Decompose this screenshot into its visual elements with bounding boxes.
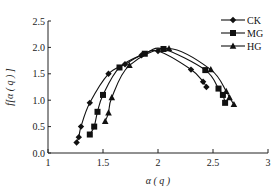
x-tick-label: 3	[266, 157, 271, 168]
x-tick-label: 2.5	[207, 157, 220, 168]
legend-label: CK	[247, 15, 262, 26]
y-tick-label: 2.0	[33, 42, 46, 53]
x-tick-label: 1	[46, 157, 51, 168]
y-tick-label: 0.5	[33, 121, 46, 132]
legend: CKMGHG	[221, 15, 263, 52]
legend-label: MG	[247, 28, 263, 39]
series-ck	[73, 48, 209, 146]
y-axis-title: f[α ( q ) ]	[4, 68, 16, 106]
legend-square-icon	[230, 30, 236, 36]
triangle-marker	[105, 109, 112, 115]
square-marker	[222, 100, 228, 106]
legend-item-hg: HG	[221, 41, 261, 52]
square-marker	[87, 132, 93, 138]
x-tick-label: 1.5	[97, 157, 110, 168]
square-marker	[117, 64, 123, 70]
legend-diamond-icon	[230, 17, 236, 23]
y-tick-label: 1.5	[33, 68, 46, 79]
triangle-marker	[109, 94, 116, 100]
triangle-marker	[208, 66, 215, 72]
y-tick-label: 2.5	[33, 16, 46, 27]
square-marker	[91, 124, 97, 130]
legend-item-ck: CK	[221, 15, 262, 26]
square-marker	[95, 109, 101, 115]
triangle-marker	[102, 118, 109, 124]
diamond-marker	[78, 123, 84, 129]
triangle-marker	[223, 88, 230, 94]
x-axis-title: α ( q )	[146, 175, 171, 187]
chart: 0.00.51.01.52.02.511.522.53α ( q )f[α ( …	[0, 0, 277, 196]
axes: 0.00.51.01.52.02.511.522.53α ( q )f[α ( …	[4, 16, 271, 188]
y-tick-label: 0.0	[33, 148, 46, 159]
legend-label: HG	[247, 41, 261, 52]
diamond-marker	[203, 84, 209, 90]
square-marker	[216, 86, 222, 92]
diamond-marker	[87, 100, 93, 106]
y-tick-label: 1.0	[33, 95, 46, 106]
series-line	[90, 48, 225, 134]
triangle-marker	[226, 94, 233, 100]
square-marker	[100, 92, 106, 98]
series-line	[105, 48, 234, 121]
square-marker	[202, 67, 208, 73]
legend-item-mg: MG	[221, 28, 263, 39]
x-tick-label: 2	[156, 157, 161, 168]
data-curves	[73, 45, 237, 146]
